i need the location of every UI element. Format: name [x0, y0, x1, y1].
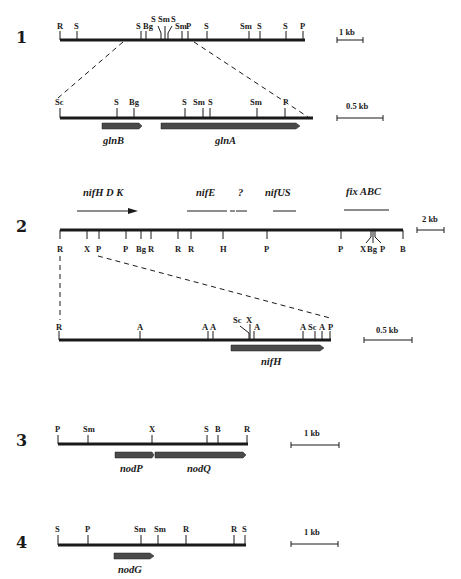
zoom-guide-right	[98, 256, 330, 318]
site-label: B	[215, 424, 221, 434]
site-label: A	[300, 322, 307, 332]
scale-bar: 0.5 kb	[364, 325, 412, 343]
site-label: S	[204, 21, 209, 31]
scale-label: 1 kb	[304, 527, 320, 537]
scale-label: 1 kb	[304, 428, 320, 438]
site-label: R	[56, 322, 63, 332]
site-label: R	[175, 244, 182, 254]
site-label: X	[360, 244, 367, 254]
site-label: R	[188, 244, 195, 254]
gene-label: nifH	[261, 356, 282, 367]
site-label: S	[242, 524, 247, 534]
site-label: P	[283, 97, 288, 107]
site-label: P	[96, 244, 101, 254]
panel-number: 1	[16, 28, 27, 47]
site-label: Sm	[240, 21, 252, 31]
site-label: Sm	[158, 14, 170, 24]
restriction-ticks	[60, 230, 403, 243]
site-label: Sm	[154, 524, 166, 534]
site-label: S	[204, 424, 209, 434]
site-label: R	[231, 524, 238, 534]
site-label: Sm	[134, 524, 146, 534]
scale-label: 0.5 kb	[346, 101, 368, 111]
panel-1: 1 R S S Bg S Sm S Sm P	[16, 14, 383, 146]
panel-number: 2	[16, 217, 27, 236]
site-label: R	[57, 21, 64, 31]
site-label: S	[208, 97, 213, 107]
site-label: P	[55, 424, 60, 434]
scale-label: 2 kb	[422, 214, 438, 224]
restriction-map-figure: 1 R S S Bg S Sm S Sm P	[0, 0, 461, 579]
gene-region-label: nifE	[196, 187, 215, 198]
site-label: B	[400, 244, 406, 254]
site-label: R	[183, 524, 190, 534]
site-label: Sc	[55, 97, 64, 107]
gene-label: glnA	[214, 135, 236, 146]
scale-bar: 2 kb	[417, 214, 444, 233]
site-label: A	[254, 322, 261, 332]
scale-bar: 1 kb	[291, 527, 338, 547]
panel-2: nifH D K nifE ? nifUS fix ABC 2	[16, 186, 444, 367]
site-label: S	[283, 21, 288, 31]
site-label: Sm	[83, 424, 95, 434]
site-label: P	[85, 524, 90, 534]
site-label: Sc	[233, 315, 242, 325]
site-label: P	[186, 21, 191, 31]
site-label: S	[55, 524, 60, 534]
site-label: S	[136, 21, 141, 31]
gene-arrow-glnA	[161, 123, 300, 129]
site-label: P	[328, 322, 333, 332]
site-label: P	[300, 21, 305, 31]
site-label: P	[264, 244, 269, 254]
panel-number: 4	[16, 533, 27, 552]
site-label: Sc	[308, 322, 317, 332]
site-label: S	[114, 97, 119, 107]
site-label: Bg	[129, 97, 140, 107]
site-label: H	[220, 244, 227, 254]
gene-arrow-nodP	[115, 452, 154, 458]
gene-label: nodQ	[187, 463, 211, 474]
gene-region-label: nifUS	[265, 187, 291, 198]
site-label: P	[338, 244, 343, 254]
site-label: Bg	[367, 244, 378, 254]
gene-region-label: nifH D K	[83, 187, 124, 198]
gene-region-label: ?	[238, 187, 243, 198]
site-label: P	[380, 244, 385, 254]
site-label: Sm	[250, 97, 262, 107]
panel-2-inset: R A A A Sc X A A Sc A P nifH 0.5 kb	[56, 315, 412, 367]
gene-arrow-glnB	[102, 123, 142, 129]
gene-label: glnB	[102, 135, 124, 146]
site-label: S	[257, 21, 262, 31]
gene-arrow-nifH	[231, 345, 324, 351]
site-label: S	[74, 21, 79, 31]
scale-bar: 1 kb	[337, 27, 363, 43]
scale-bar: 1 kb	[291, 428, 339, 448]
site-label: X	[84, 244, 91, 254]
site-label: Bg	[136, 244, 147, 254]
site-label: A	[137, 322, 144, 332]
site-label: P	[123, 244, 128, 254]
panel-number: 3	[16, 431, 27, 450]
site-label: R	[148, 244, 155, 254]
gene-region-label: fix ABC	[346, 186, 382, 197]
site-label: R	[57, 244, 64, 254]
panel-3: 3 P Sm X S B R nodP nodQ 1 kb	[16, 424, 339, 474]
panel-4: 4 S P Sm Sm R R S nodG 1 kb	[16, 524, 338, 575]
zoom-guide-left	[58, 42, 123, 98]
site-label: X	[246, 315, 253, 325]
panel-1-inset: Sc S Bg S Sm S Sm P glnB glnA 0.5 kb	[55, 97, 383, 146]
site-label: A	[319, 322, 326, 332]
site-label: Sm	[193, 97, 205, 107]
site-label: A	[202, 322, 209, 332]
arrow-head-icon	[128, 208, 138, 214]
gene-arrow-nodG	[114, 553, 154, 559]
scale-label: 0.5 kb	[376, 325, 398, 335]
gene-arrow-nodQ	[155, 452, 246, 458]
site-label: A	[210, 322, 217, 332]
site-label: X	[149, 424, 156, 434]
site-label: R	[244, 424, 251, 434]
gene-label: nodP	[120, 463, 143, 474]
gene-label: nodG	[118, 564, 142, 575]
scale-label: 1 kb	[339, 27, 355, 37]
site-label: S	[182, 97, 187, 107]
